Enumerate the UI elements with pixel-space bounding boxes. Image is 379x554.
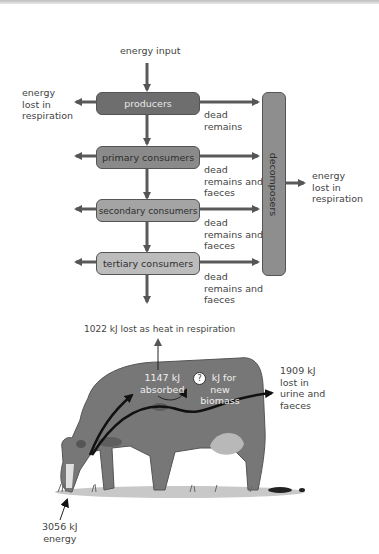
biomass-label: kJ for new biomass [200,372,240,407]
right-respiration-loss-label: energy lost in respiration [312,170,363,205]
producers-dead-remains-label: dead remains [204,109,242,132]
tertiary-consumers-box: tertiary consumers [96,252,200,275]
decomposers-box: decomposers [262,92,286,276]
absorbed-label: 1147 kJ absorbed [140,372,184,395]
energy-input-label: energy input [120,45,181,57]
respiration-heat-loss-label: 1022 kJ lost as heat in respiration [84,324,235,336]
primary-consumers-box: primary consumers [96,146,200,169]
left-respiration-loss-label: energy lost in respiration [22,87,73,122]
urine-faeces-loss-label: 1909 kJ lost in urine and faeces [280,365,325,411]
secondary-consumers-box: secondary consumers [96,199,200,222]
primary-dead-remains-label: dead remains and faeces [204,164,263,199]
flow-arrows [0,0,379,554]
tertiary-dead-remains-label: dead remains and faeces [204,271,263,306]
producers-box: producers [96,92,200,115]
secondary-dead-remains-label: dead remains and faeces [204,217,263,252]
energy-intake-label: 3056 kJ energy [42,521,78,544]
